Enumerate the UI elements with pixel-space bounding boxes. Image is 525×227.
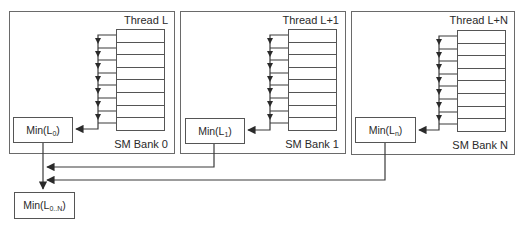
- min-box-n: Min(Ln): [355, 117, 416, 143]
- min-prefix: Min(L: [26, 124, 52, 136]
- register-row: [458, 107, 505, 120]
- register-row: [289, 30, 336, 43]
- thread-label: Thread L+N: [450, 14, 508, 26]
- register-row: [458, 44, 505, 57]
- bank-label: SM Bank 1: [285, 138, 339, 150]
- bank-label: SM Bank 0: [114, 138, 168, 150]
- register-row: [117, 30, 164, 43]
- min-label: Min(L0..N): [23, 199, 66, 212]
- register-row: [458, 94, 505, 107]
- min-box-0: Min(L0): [13, 117, 73, 143]
- register-row: [117, 93, 164, 106]
- thread-label: Thread L: [124, 14, 168, 26]
- register-column-0: [116, 29, 165, 131]
- min-suffix: ): [56, 124, 60, 136]
- register-row: [458, 81, 505, 94]
- register-row: [289, 80, 336, 93]
- register-column-1: [288, 29, 337, 131]
- min-prefix: Min(L: [23, 199, 49, 211]
- min-label: Min(L0): [26, 124, 60, 137]
- register-row: [289, 55, 336, 68]
- register-row: [289, 118, 336, 131]
- register-row: [458, 31, 505, 44]
- min-suffix: ): [399, 124, 403, 136]
- register-row: [458, 119, 505, 132]
- register-row: [117, 80, 164, 93]
- min-prefix: Min(L: [198, 125, 224, 137]
- register-row: [117, 55, 164, 68]
- register-row: [289, 106, 336, 119]
- min-box-1: Min(L1): [185, 118, 245, 144]
- register-row: [458, 56, 505, 69]
- min-prefix: Min(L: [369, 124, 395, 136]
- register-row: [289, 68, 336, 81]
- bank-label: SM Bank N: [452, 139, 508, 151]
- min-box-final: Min(L0..N): [14, 192, 75, 219]
- register-row: [117, 43, 164, 56]
- min-label: Min(Ln): [369, 124, 403, 137]
- register-row: [117, 68, 164, 81]
- thread-label: Thread L+1: [282, 14, 339, 26]
- min-suffix: ): [228, 125, 232, 137]
- register-row: [458, 69, 505, 82]
- register-row: [289, 43, 336, 56]
- register-row: [117, 106, 164, 119]
- register-column-n: [457, 30, 506, 132]
- register-row: [289, 93, 336, 106]
- min-subscript: 0..N: [49, 205, 62, 212]
- register-row: [117, 118, 164, 131]
- min-label: Min(L1): [198, 125, 232, 138]
- min-suffix: ): [62, 199, 66, 211]
